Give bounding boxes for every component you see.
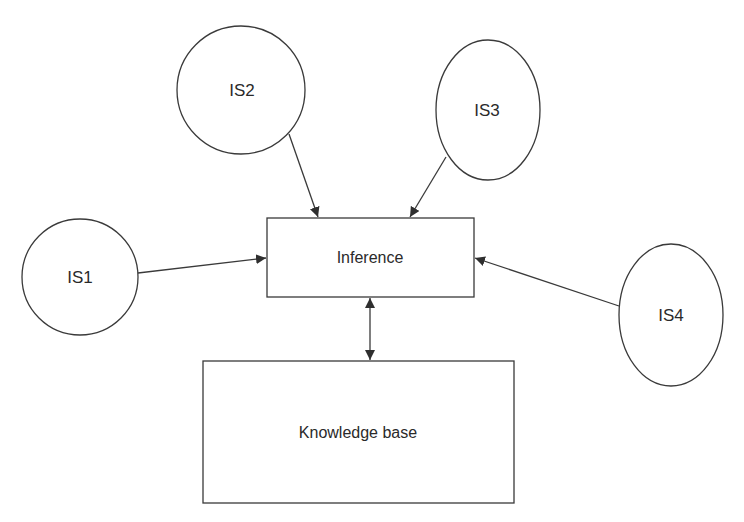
node-is2[interactable]: IS2 [177,26,305,154]
is3-label: IS3 [474,101,500,120]
node-knowledge-base[interactable]: Knowledge base [203,361,514,503]
node-is3[interactable]: IS3 [436,40,540,180]
knowledge-base-label: Knowledge base [299,424,417,441]
inference-label: Inference [337,249,404,266]
edge-is1-to-inference [138,258,266,273]
edge-is2-to-inference [289,134,318,217]
node-is4[interactable]: IS4 [619,244,723,386]
diagram-canvas: IS1 IS2 IS3 IS4 Inference Knowledge base [0,0,744,522]
edge-is3-to-inference [410,157,446,217]
is2-label: IS2 [229,81,255,100]
node-is1[interactable]: IS1 [22,219,138,335]
is4-label: IS4 [658,306,684,325]
node-inference[interactable]: Inference [267,218,474,297]
edge-is4-to-inference [475,258,619,306]
is1-label: IS1 [67,268,93,287]
